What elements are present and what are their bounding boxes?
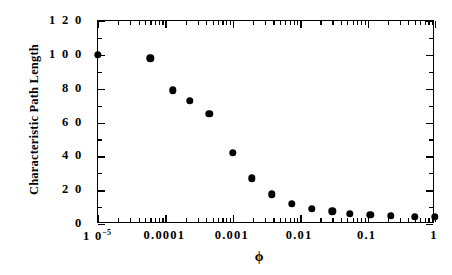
data-point <box>147 55 154 62</box>
data-point <box>268 191 275 198</box>
x-axis-title-text: ϕ <box>189 249 264 264</box>
x-tick-label: 0.0001 <box>144 228 186 243</box>
axis-tick <box>332 218 333 222</box>
axis-tick <box>429 173 433 174</box>
axis-tick <box>230 21 231 25</box>
axis-tick <box>320 21 321 25</box>
axis-tick <box>198 218 199 222</box>
axis-tick <box>226 218 227 222</box>
y-tick-label: 6 0 <box>62 114 83 129</box>
axis-tick <box>98 72 102 73</box>
axis-tick <box>218 21 219 25</box>
axis-tick <box>415 21 416 25</box>
axis-tick <box>353 21 354 25</box>
axis-tick <box>285 21 286 25</box>
axis-tick <box>162 21 163 25</box>
axis-tick <box>297 218 298 222</box>
axis-tick <box>253 218 254 222</box>
axis-tick <box>130 218 131 222</box>
x-tick-label: 0.1 <box>357 228 376 243</box>
data-point <box>431 213 438 220</box>
axis-tick <box>290 21 291 25</box>
axis-tick <box>408 218 409 222</box>
axis-tick <box>426 123 433 124</box>
axis-tick <box>361 21 362 25</box>
axis-tick <box>98 139 102 140</box>
axis-tick <box>226 21 227 25</box>
axis-tick <box>294 21 295 25</box>
axis-tick <box>218 218 219 222</box>
axis-tick <box>273 21 274 25</box>
data-point <box>411 213 418 220</box>
axis-tick <box>426 156 433 157</box>
axis-tick <box>118 218 119 222</box>
axis-tick <box>280 21 281 25</box>
axis-tick <box>98 106 102 107</box>
axis-tick <box>420 21 421 25</box>
axis-tick <box>162 218 163 222</box>
axis-tick <box>332 21 333 25</box>
axis-tick <box>353 218 354 222</box>
data-point <box>94 51 101 58</box>
data-point <box>288 200 295 207</box>
axis-tick <box>357 218 358 222</box>
axis-tick <box>233 21 234 28</box>
axis-tick <box>435 21 436 28</box>
x-tick-label: 0.001 <box>215 228 249 243</box>
axis-tick <box>98 173 102 174</box>
axis-tick <box>320 218 321 222</box>
axis-tick <box>341 21 342 25</box>
axis-tick <box>213 218 214 222</box>
x-tick-label: 1 0−5 <box>83 228 111 244</box>
plot-area <box>97 20 434 223</box>
y-tick-label: 1 2 0 <box>49 13 83 28</box>
axis-tick <box>426 89 433 90</box>
axis-tick <box>150 21 151 25</box>
data-point <box>248 175 255 182</box>
axis-tick <box>347 218 348 222</box>
axis-tick <box>365 218 366 222</box>
axis-tick <box>198 21 199 25</box>
axis-tick <box>429 106 433 107</box>
axis-tick <box>98 207 102 208</box>
axis-tick <box>388 21 389 25</box>
data-point <box>206 110 213 117</box>
axis-tick <box>294 218 295 222</box>
x-tick-label: 1 <box>430 228 437 243</box>
axis-tick <box>368 21 369 28</box>
axis-tick <box>206 218 207 222</box>
axis-tick <box>297 21 298 25</box>
axis-tick <box>98 89 105 90</box>
axis-tick <box>426 21 433 22</box>
data-point <box>186 97 193 104</box>
axis-tick <box>290 218 291 222</box>
data-point <box>229 149 236 156</box>
axis-tick <box>357 21 358 25</box>
axis-tick <box>98 224 105 225</box>
axis-tick <box>98 123 105 124</box>
axis-tick <box>300 21 301 28</box>
axis-tick <box>341 218 342 222</box>
axis-tick <box>273 218 274 222</box>
figure-scatter-path-length: Characteristic Path Length 02 04 06 08 0… <box>0 0 452 275</box>
axis-tick <box>139 21 140 25</box>
y-tick-label: 2 0 <box>62 182 83 197</box>
axis-tick <box>429 207 433 208</box>
y-tick-label: 8 0 <box>62 80 83 95</box>
data-point <box>387 212 394 219</box>
axis-tick <box>98 215 99 222</box>
axis-tick <box>300 215 301 222</box>
data-point <box>169 87 176 94</box>
axis-tick <box>428 218 429 222</box>
axis-tick <box>98 38 102 39</box>
axis-tick <box>98 156 105 157</box>
axis-tick <box>429 38 433 39</box>
axis-tick <box>118 21 119 25</box>
axis-tick <box>159 218 160 222</box>
axis-tick <box>426 190 433 191</box>
axis-tick <box>361 218 362 222</box>
axis-tick <box>426 55 433 56</box>
axis-tick <box>186 218 187 222</box>
axis-tick <box>429 139 433 140</box>
axis-tick <box>400 218 401 222</box>
